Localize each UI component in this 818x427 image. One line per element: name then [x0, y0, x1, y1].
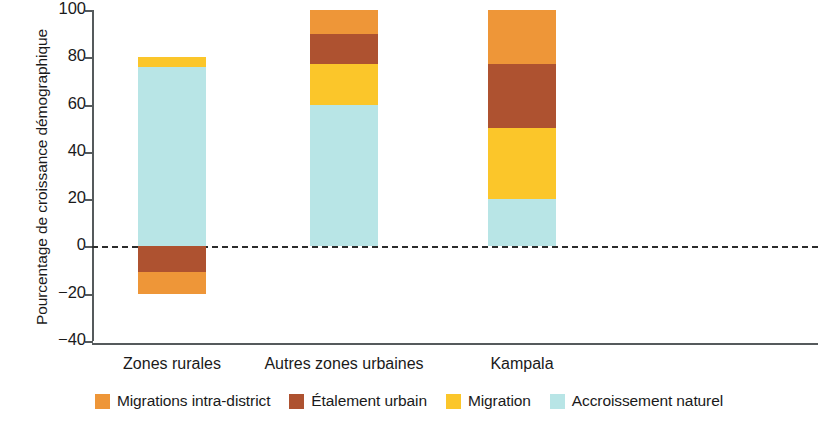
y-axis-line: [92, 10, 94, 341]
plot-area: 100806040200−20−40 Zones ruralesAutres z…: [92, 10, 818, 345]
y-tick-mark: [85, 105, 93, 107]
y-tick-label: 60: [68, 94, 86, 113]
bar-segment: [310, 10, 378, 34]
legend-swatch-icon: [289, 394, 304, 409]
legend-label: Migrations intra-district: [117, 392, 270, 410]
bar-segment: [138, 57, 206, 66]
y-tick-label: −40: [58, 330, 86, 349]
legend-label: Accroissement naturel: [572, 392, 723, 410]
y-tick-label: −20: [58, 283, 86, 302]
chart-container: Pourcentage de croissance démographique …: [0, 0, 818, 427]
legend-item[interactable]: Migration: [446, 392, 531, 410]
bar-segment: [488, 64, 556, 128]
legend-label: Migration: [468, 392, 531, 410]
y-tick-mark: [85, 152, 93, 154]
legend-item[interactable]: Migrations intra-district: [95, 392, 270, 410]
legend-swatch-icon: [446, 394, 461, 409]
y-tick-label: 40: [68, 141, 86, 160]
y-tick-mark: [85, 341, 93, 343]
bar-segment: [138, 246, 206, 272]
x-axis-label: Zones rurales: [123, 355, 221, 373]
y-tick-label: 100: [58, 0, 86, 18]
bar-segment: [310, 105, 378, 247]
y-tick-label: 80: [68, 46, 86, 65]
bar-segment: [310, 64, 378, 104]
bar-segment: [488, 10, 556, 64]
x-axis-label: Autres zones urbaines: [264, 355, 423, 373]
bar-segment: [310, 34, 378, 65]
chart-legend: Migrations intra-districtÉtalement urbai…: [0, 392, 818, 410]
stacked-bar: [310, 10, 378, 341]
y-tick-mark: [85, 199, 93, 201]
bar-segment: [488, 199, 556, 246]
x-axis-line: [92, 343, 818, 345]
stacked-bar: [138, 10, 206, 341]
y-tick-mark: [85, 294, 93, 296]
stacked-bar: [488, 10, 556, 341]
legend-swatch-icon: [550, 394, 565, 409]
y-tick-label: 20: [68, 188, 86, 207]
x-axis-label: Kampala: [490, 355, 553, 373]
y-tick-mark: [85, 10, 93, 12]
bar-segment: [138, 67, 206, 247]
bar-segment: [138, 272, 206, 293]
y-tick-mark: [85, 57, 93, 59]
bar-segment: [488, 128, 556, 199]
y-axis-title: Pourcentage de croissance démographique: [33, 7, 51, 347]
legend-item[interactable]: Étalement urbain: [289, 392, 427, 410]
legend-label: Étalement urbain: [311, 392, 427, 410]
legend-item[interactable]: Accroissement naturel: [550, 392, 723, 410]
legend-swatch-icon: [95, 394, 110, 409]
y-tick-label: 0: [77, 235, 86, 254]
